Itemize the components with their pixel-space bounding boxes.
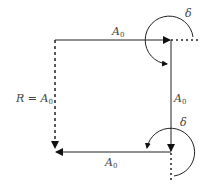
label-top: A0 [111,25,124,39]
label-delta-top: δ [185,7,192,20]
label-bottom: A0 [104,156,117,170]
label-resultant: R = A0 [15,92,53,106]
label-right: A0 [173,92,186,106]
label-delta-bottom: δ [180,116,187,129]
phasor-diagram: A0 A0 A0 R = A0 δ δ [0,0,214,185]
